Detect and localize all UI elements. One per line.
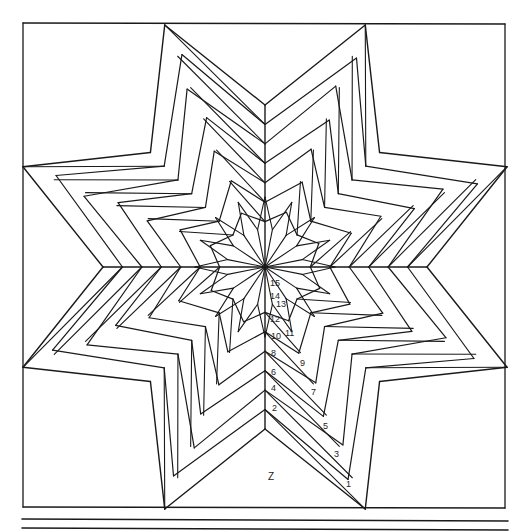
sequence-label: 2: [272, 403, 277, 413]
sequence-label: 15: [270, 278, 280, 288]
sequence-label: 11: [285, 328, 294, 338]
star-pattern-diagram: 123456789101112131415 Z: [0, 0, 527, 531]
star-geometry: [22, 23, 508, 530]
sequence-label: 9: [300, 358, 305, 368]
sequence-label: 7: [311, 387, 316, 397]
sequence-label: 4: [271, 383, 276, 393]
sequence-label: 8: [271, 348, 276, 358]
sequence-label: 1: [346, 479, 351, 489]
sequence-label: 6: [271, 367, 276, 377]
sequence-label: 10: [271, 331, 281, 341]
section-label-z: Z: [268, 471, 274, 482]
sequence-label: 3: [334, 449, 339, 459]
sequence-label: 12: [270, 314, 280, 324]
sequence-label: 14: [270, 291, 280, 301]
sequence-label: 5: [323, 421, 328, 431]
